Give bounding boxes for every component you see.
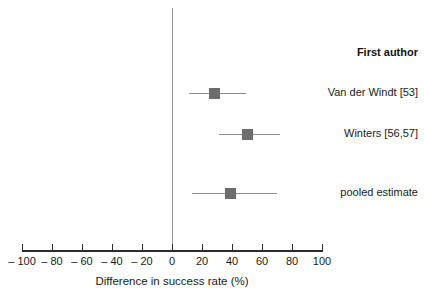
x-axis-title: Difference in success rate (%) [0,275,344,287]
x-tick [262,244,263,252]
x-tick [112,244,113,252]
x-tick [52,244,53,252]
x-tick [142,244,143,252]
column-header-first-author: First author [357,46,418,58]
x-tick [82,244,83,252]
estimate-marker [242,129,253,140]
row-label: pooled estimate [340,186,418,198]
x-tick [172,244,173,252]
x-tick [22,244,23,252]
estimate-marker [209,88,220,99]
x-tick [292,244,293,252]
x-tick [322,244,323,252]
forest-plot-figure: – 100– 80– 60– 40– 20020406080100 Differ… [0,0,424,297]
x-tick-label: 100 [302,255,342,268]
x-tick [202,244,203,252]
plot-area: – 100– 80– 60– 40– 20020406080100 Differ… [0,0,424,297]
zero-reference-line [172,8,173,251]
x-tick [232,244,233,252]
estimate-marker [225,188,236,199]
row-label: Van der Windt [53] [328,86,418,98]
row-label: Winters [56,57] [344,127,418,139]
